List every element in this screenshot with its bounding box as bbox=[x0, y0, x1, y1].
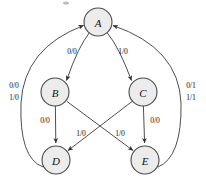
edge-label-e-to-a-line1: 0/1 bbox=[186, 81, 196, 90]
node-c[interactable]: C bbox=[129, 78, 157, 106]
edge-a-to-b bbox=[67, 33, 90, 81]
node-a-label: A bbox=[94, 17, 102, 29]
edge-label-d-to-a-line2: 1/0 bbox=[9, 93, 19, 102]
node-c-label: C bbox=[139, 87, 147, 99]
node-e-label: E bbox=[141, 155, 149, 167]
edge-label-a-to-c: 1/0 bbox=[118, 47, 128, 56]
node-d[interactable]: D bbox=[42, 146, 70, 174]
edge-c-to-e bbox=[143, 106, 144, 143]
edge-label-e-to-a-line2: 1/1 bbox=[186, 93, 196, 102]
node-b-label: B bbox=[52, 87, 59, 99]
node-b[interactable]: B bbox=[41, 78, 69, 106]
edge-label-b-to-e: 1/0 bbox=[115, 129, 125, 138]
edge-label-c-to-e: 0/0 bbox=[150, 116, 160, 125]
state-diagram-canvas: A B C D E 0/0 1/0 0/0 0/0 bbox=[0, 0, 206, 182]
node-a[interactable]: A bbox=[84, 8, 112, 36]
scan-artifact-speck bbox=[63, 1, 69, 4]
edge-label-d-to-a-line1: 0/0 bbox=[9, 81, 19, 90]
edge-label-a-to-b: 0/0 bbox=[67, 47, 77, 56]
edge-a-to-c bbox=[107, 33, 132, 81]
nodes-group: A B C D E bbox=[41, 8, 159, 174]
state-diagram-svg: A B C D E 0/0 1/0 0/0 0/0 bbox=[0, 0, 206, 182]
edge-label-b-to-d: 0/0 bbox=[40, 116, 50, 125]
node-d-label: D bbox=[51, 155, 60, 167]
node-e[interactable]: E bbox=[131, 146, 159, 174]
edge-label-c-to-d: 1/0 bbox=[76, 129, 86, 138]
